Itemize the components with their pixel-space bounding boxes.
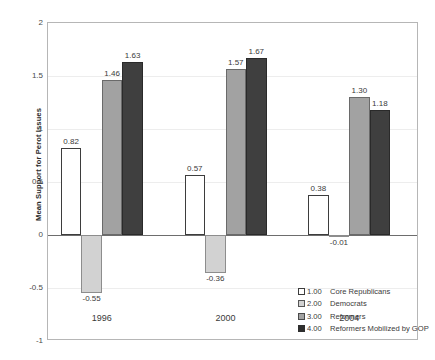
plot-area: 0.82-0.551.461.630.57-0.361.571.670.38-0…	[47, 22, 418, 340]
bar-value-label: 1.18	[372, 99, 388, 108]
bar-chart: Mean Support for Perot Issues 21.510.50-…	[0, 0, 435, 360]
bar	[329, 235, 350, 237]
legend-item-label: Reformers Mobilized by GOP	[330, 324, 429, 333]
legend-item: 4.00Reformers Mobilized by GOP	[298, 323, 429, 336]
legend-item-key: 2.00	[307, 299, 330, 308]
legend-swatch-icon	[298, 325, 305, 332]
legend-item-key: 1.00	[307, 287, 330, 296]
bar	[205, 235, 226, 273]
bar-value-label: 0.57	[187, 164, 203, 173]
legend-item: 2.00Democrats	[298, 298, 429, 311]
bar	[226, 69, 247, 235]
legend-swatch-icon	[298, 300, 305, 307]
bar	[246, 58, 267, 235]
x-tick-label: 2000	[215, 313, 235, 323]
legend-item: 1.00Core Republicans	[298, 285, 429, 298]
legend-item-key: 4.00	[307, 324, 330, 333]
bar	[81, 235, 102, 293]
legend-item-label: Democrats	[330, 299, 367, 308]
bar	[102, 80, 123, 235]
bar-value-label: 1.57	[228, 58, 244, 67]
bar	[349, 97, 370, 235]
legend-swatch-icon	[298, 288, 305, 295]
bar-value-label: -0.36	[206, 274, 224, 283]
bar-value-label: 1.67	[248, 47, 264, 56]
bar-value-label: 1.30	[352, 86, 368, 95]
bar	[308, 195, 329, 235]
x-tick-label: 1996	[92, 313, 112, 323]
y-axis-tick-labels: 21.510.50-0.5-1	[0, 22, 43, 340]
bar	[185, 175, 206, 235]
y-tick-label: 0.5	[3, 177, 43, 186]
y-tick-label: -0.5	[3, 283, 43, 292]
zero-baseline	[48, 235, 417, 236]
y-tick-label: 2	[3, 18, 43, 27]
legend: 1.00Core Republicans2.00Democrats3.00Ref…	[298, 285, 429, 335]
y-tick-label: 1.5	[3, 71, 43, 80]
legend-item: 3.00Reformers	[298, 310, 429, 323]
legend-item-key: 3.00	[307, 312, 330, 321]
bar-value-label: -0.55	[82, 294, 100, 303]
y-tick-label: 0	[3, 230, 43, 239]
y-tick-label: -1	[3, 336, 43, 345]
bar-value-label: 0.38	[311, 184, 327, 193]
bar-value-label: 1.46	[104, 69, 120, 78]
legend-item-label: Core Republicans	[330, 287, 390, 296]
legend-item-label: Reformers	[330, 312, 365, 321]
bar-value-label: 0.82	[63, 137, 79, 146]
bar	[122, 62, 143, 235]
y-tick-label: 1	[3, 124, 43, 133]
bar	[370, 110, 391, 235]
legend-swatch-icon	[298, 313, 305, 320]
bar-value-label: 1.63	[125, 51, 141, 60]
bar-value-label: -0.01	[330, 238, 348, 247]
bar	[61, 148, 82, 235]
